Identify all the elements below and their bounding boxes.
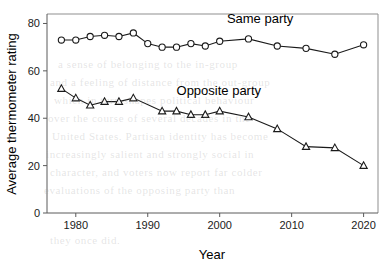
x-tick-label: 1980 — [64, 219, 88, 231]
series-layer — [58, 30, 367, 169]
data-point-marker — [58, 85, 65, 92]
data-point-marker — [361, 42, 367, 48]
y-axis-ticks: 020406080 — [28, 17, 47, 219]
data-point-marker — [72, 94, 79, 101]
line-chart: 020406080 19801990200020102020 Same part… — [0, 0, 391, 267]
x-tick-label: 2020 — [351, 219, 375, 231]
data-point-marker — [303, 45, 309, 51]
y-tick-label: 0 — [34, 207, 40, 219]
data-point-marker — [216, 107, 223, 114]
data-point-marker — [202, 43, 208, 49]
x-tick-label: 2010 — [279, 219, 303, 231]
data-point-marker — [145, 41, 151, 47]
data-point-marker — [245, 36, 251, 42]
data-point-marker — [360, 162, 367, 169]
data-point-marker — [130, 94, 137, 101]
data-point-marker — [274, 43, 280, 49]
data-point-marker — [130, 30, 136, 36]
data-point-marker — [159, 44, 165, 50]
data-point-marker — [116, 33, 122, 39]
y-tick-label: 40 — [28, 112, 40, 124]
series-same-party — [58, 30, 366, 58]
data-point-marker — [101, 32, 107, 38]
y-tick-label: 60 — [28, 65, 40, 77]
series-label-opposite-party: Opposite party — [177, 83, 262, 98]
data-point-marker — [173, 44, 179, 50]
series-line — [61, 89, 363, 166]
y-axis-title: Average thermometer rating — [4, 33, 19, 195]
data-point-marker — [332, 51, 338, 57]
data-point-marker — [58, 37, 64, 43]
x-axis-title: Year — [199, 247, 226, 262]
y-tick-label: 80 — [28, 17, 40, 29]
y-tick-label: 20 — [28, 160, 40, 172]
data-point-marker — [188, 41, 194, 47]
data-point-marker — [73, 37, 79, 43]
x-tick-label: 1990 — [135, 219, 159, 231]
data-point-marker — [302, 143, 309, 150]
data-point-marker — [217, 38, 223, 44]
x-axis-ticks: 19801990200020102020 — [64, 213, 376, 231]
x-tick-label: 2000 — [207, 219, 231, 231]
series-label-same-party: Same party — [227, 11, 294, 26]
data-point-marker — [87, 33, 93, 39]
chart-container: a sense of belonging to the in-group and… — [0, 0, 391, 267]
